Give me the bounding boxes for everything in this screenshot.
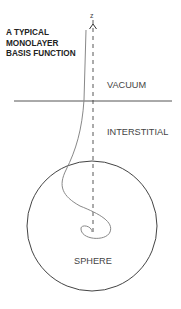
title-line-3: BASIS FUNCTION [6, 49, 76, 60]
basis-function-curve [62, 30, 111, 238]
sphere-label: SPHERE [74, 256, 112, 266]
vacuum-label: VACUUM [107, 80, 146, 90]
title-line-1: A TYPICAL [6, 28, 76, 39]
title-line-2: MONOLAYER [6, 39, 76, 50]
sphere-circle [27, 161, 157, 291]
interstitial-label: INTERSTITIAL [107, 127, 168, 137]
z-axis-label: z [90, 12, 94, 19]
diagram-title: A TYPICAL MONOLAYER BASIS FUNCTION [6, 28, 76, 60]
